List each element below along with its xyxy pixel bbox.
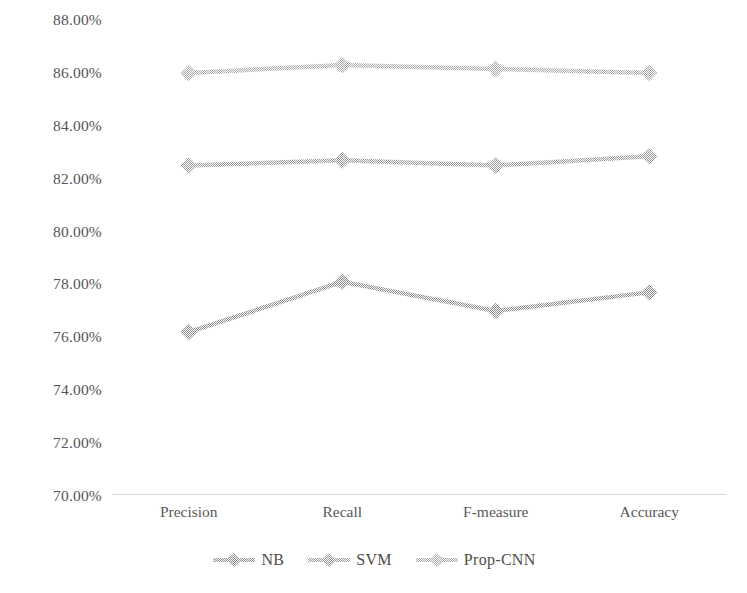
x-axis: PrecisionRecallF-measureAccuracy <box>112 503 726 533</box>
legend-item[interactable]: Prop-CNN <box>414 551 536 569</box>
line-chart: 88.00%86.00%84.00%82.00%80.00%78.00%76.0… <box>0 0 747 593</box>
data-point-marker <box>487 60 504 77</box>
plot-area <box>112 20 726 496</box>
data-point-marker <box>641 64 658 81</box>
legend-marker-icon <box>306 553 352 567</box>
x-axis-tick-label: Accuracy <box>620 503 679 521</box>
data-point-marker <box>334 152 351 169</box>
x-axis-tick-label: F-measure <box>463 503 528 521</box>
data-point-marker <box>487 302 504 319</box>
legend-item[interactable]: NB <box>211 551 284 569</box>
data-point-marker <box>180 157 197 174</box>
series-prop-cnn <box>180 56 658 81</box>
y-axis: 88.00%86.00%84.00%82.00%80.00%78.00%76.0… <box>0 0 110 593</box>
series-line <box>189 282 650 332</box>
data-point-marker <box>334 56 351 73</box>
y-axis-tick-label: 74.00% <box>53 381 102 399</box>
legend-marker-icon <box>211 553 257 567</box>
y-axis-tick-label: 78.00% <box>53 275 102 293</box>
data-point-marker <box>487 157 504 174</box>
chart-legend: NBSVMProp-CNN <box>0 545 747 575</box>
legend-label: Prop-CNN <box>464 551 536 569</box>
data-point-marker <box>180 64 197 81</box>
legend-item[interactable]: SVM <box>306 551 392 569</box>
y-axis-tick-label: 80.00% <box>53 223 102 241</box>
legend-label: SVM <box>356 551 392 569</box>
data-point-marker <box>641 284 658 301</box>
series-layer <box>112 20 726 496</box>
y-axis-tick-label: 86.00% <box>53 64 102 82</box>
y-axis-tick-label: 84.00% <box>53 117 102 135</box>
series-svm <box>180 148 658 174</box>
legend-marker-icon <box>414 553 460 567</box>
series-nb <box>180 273 658 340</box>
y-axis-tick-label: 76.00% <box>53 328 102 346</box>
legend-label: NB <box>261 551 284 569</box>
y-axis-tick-label: 72.00% <box>53 434 102 452</box>
series-line <box>189 65 650 73</box>
x-axis-tick-label: Precision <box>160 503 218 521</box>
data-point-marker <box>334 273 351 290</box>
y-axis-tick-label: 70.00% <box>53 487 102 505</box>
data-point-marker <box>641 148 658 165</box>
x-axis-tick-label: Recall <box>322 503 362 521</box>
data-point-marker <box>180 324 197 341</box>
series-line <box>189 156 650 165</box>
y-axis-tick-label: 82.00% <box>53 170 102 188</box>
y-axis-tick-label: 88.00% <box>53 11 102 29</box>
